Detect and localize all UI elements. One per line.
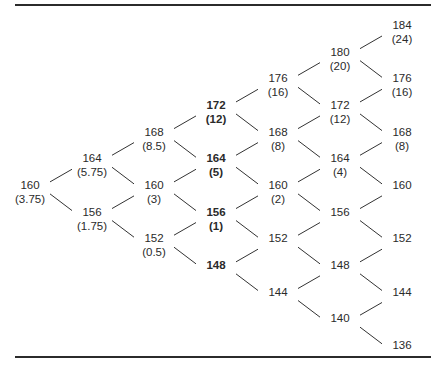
node-price: 152: [248, 231, 308, 245]
node-option-value: (3): [124, 192, 184, 206]
tree-node: 160: [372, 178, 432, 192]
node-option-value: (8): [248, 139, 308, 153]
node-price: 172: [310, 98, 370, 112]
node-option-value: (5): [186, 165, 246, 179]
tree-node: 180(20): [310, 45, 370, 73]
tree-node: 160(2): [248, 178, 308, 206]
tree-node: 156(1): [186, 205, 246, 233]
node-option-value: (8): [372, 139, 432, 153]
node-price: 160: [0, 178, 60, 192]
node-price: 176: [248, 71, 308, 85]
node-price: 156: [62, 205, 122, 219]
tree-node: 152: [248, 231, 308, 245]
node-price: 160: [372, 178, 432, 192]
tree-node: 152(0.5): [124, 231, 184, 259]
tree-node: 152: [372, 231, 432, 245]
node-price: 152: [124, 231, 184, 245]
node-price: 156: [186, 205, 246, 219]
tree-node: 136: [372, 338, 432, 352]
node-price: 168: [372, 125, 432, 139]
node-option-value: (20): [310, 59, 370, 73]
node-price: 172: [186, 98, 246, 112]
node-option-value: (8.5): [124, 139, 184, 153]
node-price: 168: [248, 125, 308, 139]
node-price: 136: [372, 338, 432, 352]
node-price: 176: [372, 71, 432, 85]
node-price: 148: [186, 258, 246, 272]
node-option-value: (16): [372, 85, 432, 99]
node-option-value: (0.5): [124, 245, 184, 259]
node-price: 160: [124, 178, 184, 192]
tree-node: 156(1.75): [62, 205, 122, 233]
node-price: 164: [62, 151, 122, 165]
tree-node: 164(5.75): [62, 151, 122, 179]
node-option-value: (3.75): [0, 192, 60, 206]
tree-node: 160(3.75): [0, 178, 60, 206]
node-option-value: (12): [310, 112, 370, 126]
tree-node: 172(12): [186, 98, 246, 126]
node-price: 152: [372, 231, 432, 245]
tree-node: 140: [310, 311, 370, 325]
tree-node: 172(12): [310, 98, 370, 126]
node-price: 144: [372, 285, 432, 299]
node-price: 156: [310, 205, 370, 219]
tree-node: 148: [310, 258, 370, 272]
tree-node: 164(5): [186, 151, 246, 179]
node-option-value: (12): [186, 112, 246, 126]
node-price: 184: [372, 18, 432, 32]
tree-node: 184(24): [372, 18, 432, 46]
node-price: 140: [310, 311, 370, 325]
tree-node: 168(8): [248, 125, 308, 153]
node-price: 168: [124, 125, 184, 139]
tree-node: 156: [310, 205, 370, 219]
node-option-value: (16): [248, 85, 308, 99]
node-option-value: (5.75): [62, 165, 122, 179]
node-price: 148: [310, 258, 370, 272]
tree-node: 144: [372, 285, 432, 299]
node-option-value: (1): [186, 219, 246, 233]
tree-node: 148: [186, 258, 246, 272]
tree-node: 168(8): [372, 125, 432, 153]
tree-node: 144: [248, 285, 308, 299]
node-price: 144: [248, 285, 308, 299]
tree-node: 176(16): [248, 71, 308, 99]
tree-node: 160(3): [124, 178, 184, 206]
node-price: 164: [310, 151, 370, 165]
node-option-value: (2): [248, 192, 308, 206]
node-price: 164: [186, 151, 246, 165]
tree-node: 168(8.5): [124, 125, 184, 153]
tree-node: 164(4): [310, 151, 370, 179]
node-price: 180: [310, 45, 370, 59]
node-option-value: (4): [310, 165, 370, 179]
node-option-value: (24): [372, 32, 432, 46]
tree-edges: [0, 0, 436, 372]
node-price: 160: [248, 178, 308, 192]
node-option-value: (1.75): [62, 219, 122, 233]
tree-node: 176(16): [372, 71, 432, 99]
